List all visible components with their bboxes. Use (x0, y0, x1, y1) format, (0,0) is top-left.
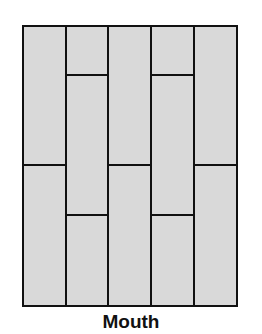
board-layout-diagram (0, 0, 262, 334)
diagram-caption: Mouth (0, 311, 262, 333)
